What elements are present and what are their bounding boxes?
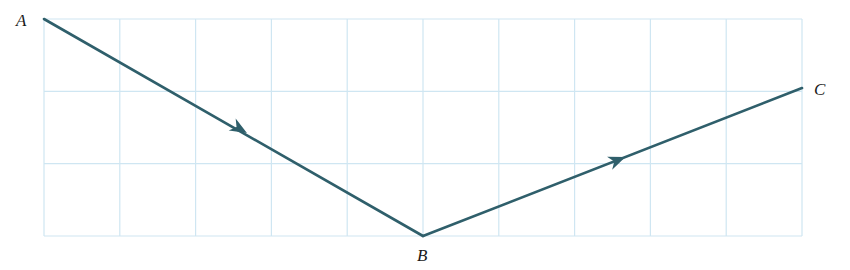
segment-bc [423, 88, 802, 236]
point-label-c: C [814, 80, 825, 100]
arrow-head-icon [607, 151, 628, 170]
point-label-a: A [16, 11, 26, 31]
point-label-b: B [417, 246, 427, 266]
segment-ab [44, 19, 423, 236]
diagram-canvas [0, 0, 850, 270]
grid [44, 19, 802, 236]
